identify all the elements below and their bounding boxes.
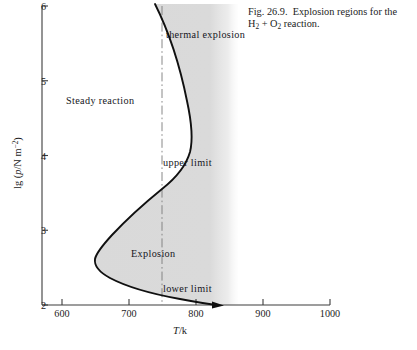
annotation-explosion: Explosion [131,248,175,259]
x-tick-label-600: 600 [54,308,69,319]
y-axis-title-suffix: ) [12,137,23,140]
y-tick-label-3: 3 [41,225,46,236]
x-tick-label-1000: 1000 [320,308,340,319]
y-tick-label-6: 6 [41,1,46,12]
figure-root: Fig. 26.9. Explosion regions for the H2 … [0,0,417,350]
y-axis-title-var: p [12,170,23,175]
plot-svg [0,0,417,350]
y-tick-label-5: 5 [41,75,46,86]
annotation-thermal-explosion: thermal explosion [166,29,245,40]
y-axis-title-exponent: −2 [11,141,20,149]
x-tick-label-700: 700 [121,308,136,319]
plot-area: 600 700 800 900 1000 6 5 4 3 2 T/k lg (p… [0,0,417,350]
y-tick-label-4: 4 [41,150,46,161]
annotation-steady-reaction: Steady reaction [66,95,134,106]
y-axis-title: lg (p/N m−2) [11,103,23,223]
x-axis-title-unit: /k [179,325,187,336]
x-axis-title: T/k [173,325,187,336]
x-tick-label-900: 900 [255,308,270,319]
y-tick-label-2: 2 [41,300,46,311]
annotation-upper-limit: upper limit [163,157,212,168]
explosion-shaded-region [90,2,240,306]
annotation-lower-limit: lower limit [163,283,212,294]
y-axis-title-unit: /N m [12,148,23,169]
x-tick-label-800: 800 [188,308,203,319]
y-axis-title-prefix: lg ( [12,175,23,189]
